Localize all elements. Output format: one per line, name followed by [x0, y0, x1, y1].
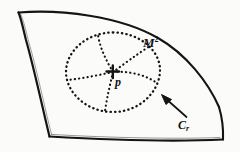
surface-left-edge-shadow	[21, 14, 52, 135]
geodesic-spoke-up	[98, 35, 113, 72]
label-manifold: M2	[143, 36, 159, 49]
label-point: p	[115, 76, 121, 88]
label-geodesic-circle: Cr	[178, 119, 189, 131]
surface-right-edge	[219, 107, 223, 140]
figure-canvas: M2 p Cr	[0, 0, 240, 152]
label-circle-letter: C	[178, 118, 186, 132]
label-manifold-letter: M	[143, 35, 155, 50]
surface-left-edge	[19, 13, 50, 137]
geodesic-spoke-left	[68, 72, 113, 80]
label-circle-subscript: r	[186, 124, 189, 133]
label-manifold-exponent: 2	[155, 35, 159, 44]
circle-pointer-arrow	[162, 95, 187, 118]
surface-top-edge	[19, 12, 220, 107]
